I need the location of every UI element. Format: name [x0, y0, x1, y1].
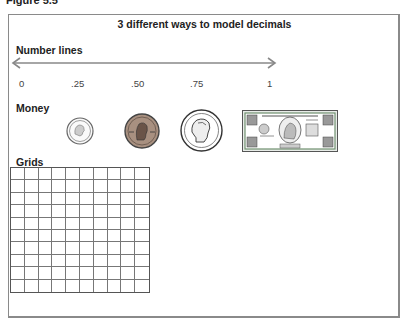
grid-cell: [25, 242, 39, 254]
grid-cell: [80, 168, 94, 180]
grid-cell: [39, 267, 53, 279]
grid-cell: [52, 193, 66, 205]
grid-cell: [121, 205, 135, 217]
dollar-bill-icon: [242, 110, 338, 152]
grid-cell: [66, 267, 80, 279]
grid-cell: [108, 267, 122, 279]
grid-cell: [108, 280, 122, 292]
grid-cell: [11, 205, 25, 217]
grid-cell: [108, 230, 122, 242]
grid-cell: [66, 193, 80, 205]
grid-cell: [66, 205, 80, 217]
grid-cell: [52, 255, 66, 267]
grid-cell: [135, 267, 149, 279]
grid-cell: [11, 255, 25, 267]
grid-cell: [135, 230, 149, 242]
tick-label-0: 0: [19, 78, 24, 89]
grid-cell: [66, 168, 80, 180]
grid-cell: [108, 255, 122, 267]
grid-cell: [25, 230, 39, 242]
dime-icon: [66, 117, 94, 145]
grid-cell: [39, 230, 53, 242]
penny-icon: [124, 113, 160, 149]
grid-cell: [80, 180, 94, 192]
tick-label-75: .75: [190, 78, 203, 89]
grid-cell: [80, 242, 94, 254]
grid-cell: [25, 255, 39, 267]
grid-cell: [25, 218, 39, 230]
section-money-label: Money: [16, 102, 49, 114]
grid-cell: [80, 205, 94, 217]
number-line-arrow-icon: [10, 57, 280, 69]
grid-cell: [66, 180, 80, 192]
grid-cell: [121, 168, 135, 180]
grid-cell: [66, 255, 80, 267]
grid-cell: [11, 242, 25, 254]
tick-label-25: .25: [71, 78, 84, 89]
grid-cell: [39, 193, 53, 205]
grid-cell: [108, 242, 122, 254]
grid-cell: [135, 205, 149, 217]
grid-cell: [108, 205, 122, 217]
grid-cell: [39, 255, 53, 267]
grid-cell: [11, 193, 25, 205]
grid-cell: [80, 230, 94, 242]
grid-cell: [66, 242, 80, 254]
tick-label-50: .50: [131, 78, 144, 89]
grid-cell: [11, 230, 25, 242]
grid-cell: [94, 218, 108, 230]
grid-cell: [135, 280, 149, 292]
grid-cell: [11, 267, 25, 279]
grid-cell: [52, 230, 66, 242]
grid-cell: [94, 230, 108, 242]
grid-cell: [39, 168, 53, 180]
grid-cell: [39, 180, 53, 192]
grid-cell: [94, 280, 108, 292]
grid-cell: [11, 168, 25, 180]
grid-cell: [94, 168, 108, 180]
grid-cell: [52, 267, 66, 279]
grid-cell: [39, 242, 53, 254]
grid-cell: [52, 242, 66, 254]
grid-cell: [108, 180, 122, 192]
grid-cell: [121, 280, 135, 292]
grid-cell: [94, 267, 108, 279]
grid-cell: [25, 280, 39, 292]
figure-label: Figure 5.5: [6, 0, 58, 6]
grid-cell: [39, 218, 53, 230]
hundreds-grid: [10, 167, 150, 293]
grid-cell: [94, 255, 108, 267]
grid-cell: [135, 255, 149, 267]
grid-cell: [135, 218, 149, 230]
grid-cell: [121, 242, 135, 254]
grid-cell: [135, 180, 149, 192]
grid-cell: [80, 218, 94, 230]
grid-cell: [52, 168, 66, 180]
nickel-icon: [180, 109, 223, 152]
grid-cell: [25, 168, 39, 180]
grid-cell: [94, 205, 108, 217]
grid-cell: [121, 267, 135, 279]
grid-cell: [66, 230, 80, 242]
grid-cell: [135, 193, 149, 205]
grid-cell: [94, 193, 108, 205]
grid-cell: [94, 180, 108, 192]
grid-cell: [135, 168, 149, 180]
grid-cell: [66, 218, 80, 230]
grid-cell: [66, 280, 80, 292]
grid-cell: [11, 218, 25, 230]
grid-cell: [52, 218, 66, 230]
grid-cell: [108, 168, 122, 180]
grid-cell: [80, 280, 94, 292]
grid-cell: [25, 267, 39, 279]
grid-cell: [108, 218, 122, 230]
grid-cell: [94, 242, 108, 254]
grid-cell: [25, 193, 39, 205]
grid-cell: [25, 205, 39, 217]
grid-cell: [121, 193, 135, 205]
grid-cell: [52, 180, 66, 192]
grid-cell: [108, 193, 122, 205]
grid-cell: [121, 230, 135, 242]
grid-cell: [52, 205, 66, 217]
grid-cell: [121, 180, 135, 192]
